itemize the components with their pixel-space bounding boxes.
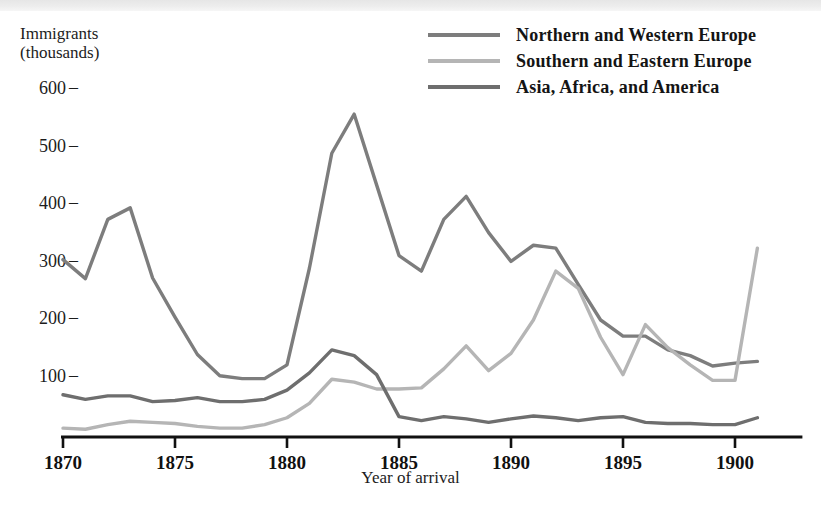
legend-label-asia-africa-america: Asia, Africa, and America	[516, 77, 719, 98]
immigration-line-chart-figure: Immigrants (thousands) Northern and West…	[0, 0, 821, 506]
legend-swatch-asia-africa-america-icon	[428, 85, 500, 89]
y-axis-tick-label-500: 500	[14, 136, 66, 157]
series-line-3	[63, 350, 757, 425]
y-axis-tick-label-600: 600	[14, 78, 66, 99]
y-axis-tick-label-100: 100	[14, 366, 66, 387]
y-axis-tick-label-300: 300	[14, 251, 66, 272]
y-axis-tick-mark-400: –	[69, 192, 78, 213]
scan-artifact-band	[0, 0, 821, 11]
legend-label-southern-eastern: Southern and Eastern Europe	[516, 51, 752, 72]
y-axis-tick-mark-300: –	[69, 250, 78, 271]
chart-legend: Northern and Western Europe Southern and…	[428, 22, 756, 100]
y-axis-tick-mark-500: –	[69, 135, 78, 156]
y-axis-tick-mark-600: –	[69, 77, 78, 98]
y-axis-tick-mark-200: –	[69, 307, 78, 328]
legend-label-northern-western: Northern and Western Europe	[516, 25, 756, 46]
legend-item-northern-western: Northern and Western Europe	[428, 22, 756, 48]
y-axis-tick-mark-100: –	[69, 365, 78, 386]
legend-swatch-southern-eastern-icon	[428, 59, 500, 63]
y-axis-tick-label-400: 400	[14, 193, 66, 214]
legend-swatch-northern-western-icon	[428, 33, 500, 37]
x-axis-title: Year of arrival	[0, 468, 821, 488]
y-axis-caption: Immigrants (thousands)	[20, 24, 99, 62]
y-axis-tick-label-200: 200	[14, 308, 66, 329]
legend-item-asia-africa-america: Asia, Africa, and America	[428, 74, 756, 100]
series-line-2	[63, 248, 757, 429]
legend-item-southern-eastern: Southern and Eastern Europe	[428, 48, 756, 74]
series-line-1	[63, 114, 757, 379]
